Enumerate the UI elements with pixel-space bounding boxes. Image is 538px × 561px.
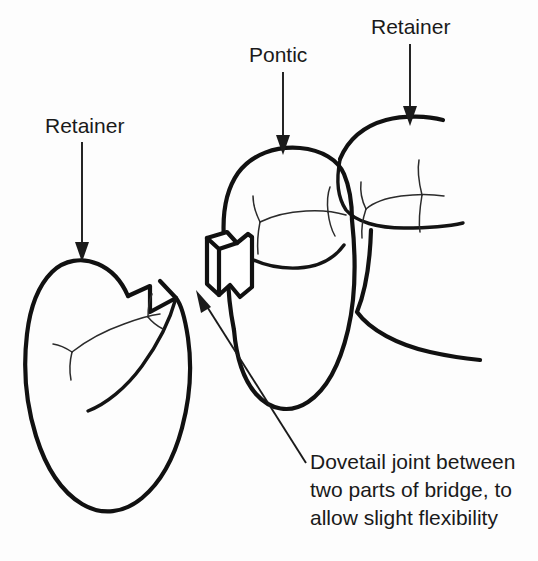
label-retainer-left: Retainer [45, 114, 124, 137]
caption-dovetail-joint: Dovetail joint between two parts of brid… [310, 450, 515, 529]
dovetail-tenon [207, 232, 252, 297]
diagram-background [0, 0, 538, 561]
dental-bridge-diagram: Retainer Pontic Retainer Dovetail joint … [0, 0, 538, 561]
diagram-canvas: Retainer Pontic Retainer Dovetail joint … [0, 0, 538, 561]
caption-line-3: allow slight flexibility [310, 506, 498, 529]
label-retainer-right: Retainer [371, 15, 450, 38]
caption-line-1: Dovetail joint between [310, 450, 515, 473]
caption-line-2: two parts of bridge, to [310, 478, 512, 501]
label-pontic: Pontic [249, 43, 307, 66]
